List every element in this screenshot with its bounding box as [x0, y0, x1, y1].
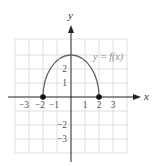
svg-text:1: 1 [83, 100, 88, 110]
endpoint-left [40, 94, 46, 100]
function-graph: x y y = f(x) −3 −2 −1 1 2 3 2 1 −2 −3 [0, 0, 155, 166]
svg-text:3: 3 [111, 100, 116, 110]
endpoint-right [96, 94, 102, 100]
svg-text:2: 2 [97, 100, 102, 110]
x-axis-label: x [143, 90, 149, 102]
y-axis-label: y [67, 9, 73, 21]
svg-text:−2: −2 [57, 120, 67, 130]
y-axis-arrow-icon [68, 25, 74, 33]
x-axis-arrow-icon [133, 94, 141, 100]
axes [8, 30, 136, 162]
svg-text:−3: −3 [57, 134, 67, 144]
svg-text:−2: −2 [35, 100, 45, 110]
svg-text:1: 1 [62, 78, 67, 88]
svg-text:−3: −3 [19, 100, 29, 110]
svg-text:−1: −1 [49, 100, 59, 110]
curve-label: y = f(x) [92, 51, 124, 63]
x-tick-labels: −3 −2 −1 1 2 3 [19, 100, 116, 110]
svg-text:2: 2 [62, 64, 67, 74]
